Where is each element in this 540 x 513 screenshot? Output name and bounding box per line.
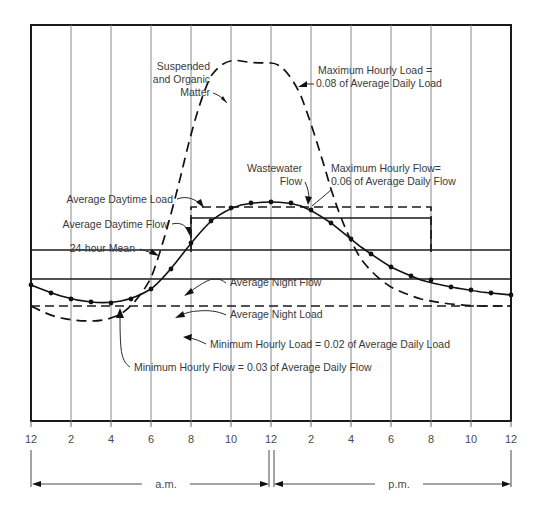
pm-arrow-left (274, 481, 283, 487)
annotation-average-daytime-load: Average Daytime Load (66, 193, 204, 208)
flow-point-11 (249, 201, 254, 206)
flow-point-20 (429, 278, 434, 283)
flow-point-24 (509, 293, 514, 298)
x-tick-label-5: 10 (225, 433, 237, 445)
annotation-wastewater-flow: Wastewater Flow (247, 162, 312, 205)
min-hourly-load-arrowhead (183, 334, 192, 341)
flow-point-12 (269, 200, 274, 205)
max-hourly-load-label-line1: Maximum Hourly Load = (318, 64, 432, 76)
average-daytime-load-label: Average Daytime Load (66, 193, 173, 205)
pm-period-label: p.m. (388, 478, 409, 490)
x-tick-label-6: 12 (265, 433, 277, 445)
x-tick-label-3: 6 (148, 433, 154, 445)
flow-point-19 (409, 274, 414, 279)
max-hourly-flow-label-line1: Maximum Hourly Flow= (331, 162, 441, 174)
x-axis: 12 2 4 6 8 10 12 2 4 6 8 10 12 (25, 421, 517, 445)
average-night-flow-label: Average Night Flow (230, 276, 322, 288)
max-hourly-load-label-line2: 0.08 of Average Daily Load (316, 77, 442, 89)
annotation-24-hour-mean: 24-hour Mean (70, 242, 159, 256)
period-spans: a.m. p.m. (31, 450, 511, 490)
average-night-load-label: Average Night Load (230, 308, 323, 320)
min-hourly-flow-leader (120, 316, 130, 367)
flow-point-2 (69, 297, 74, 302)
max-hourly-flow-label-line2: 0.06 of Average Daily Flow (331, 175, 456, 187)
average-daytime-load-leader (177, 198, 199, 203)
flow-point-14 (309, 208, 314, 213)
x-tick-label-11: 10 (465, 433, 477, 445)
average-night-load-arrowhead (175, 311, 185, 318)
wastewater-flow-label-line1: Wastewater (247, 162, 303, 174)
annotation-average-night-load: Average Night Load (175, 308, 323, 320)
average-night-load-leader (181, 311, 226, 315)
am-arrow-right (260, 481, 269, 487)
x-tick-label-1: 2 (68, 433, 74, 445)
suspended-organic-matter-label-line3: Matter (180, 86, 210, 98)
average-daytime-flow-arrowhead (185, 227, 191, 236)
average-daytime-load-arrowhead (196, 199, 204, 208)
flow-point-21 (449, 285, 454, 290)
flow-point-16 (349, 237, 354, 242)
flow-point-3 (89, 300, 94, 305)
x-tick-label-12: 12 (505, 433, 517, 445)
flow-point-17 (369, 252, 374, 257)
x-tick-label-2: 4 (108, 433, 114, 445)
average-night-flow-arrowhead (184, 288, 194, 296)
x-tick-label-9: 6 (388, 433, 394, 445)
annotation-suspended-organic-matter: Suspended and Organic Matter (153, 60, 227, 103)
average-daytime-flow-leader (172, 223, 188, 230)
flow-point-23 (489, 291, 494, 296)
chart-canvas: Suspended and Organic Matter Maximum Hou… (0, 0, 540, 513)
flow-point-0 (29, 283, 34, 288)
flow-point-15 (329, 221, 334, 226)
flow-point-9 (209, 219, 214, 224)
annotation-max-hourly-load: Maximum Hourly Load = 0.08 of Average Da… (298, 64, 442, 89)
flow-point-18 (389, 265, 394, 270)
annotation-max-hourly-flow: Maximum Hourly Flow= 0.06 of Average Dai… (312, 162, 456, 206)
flow-point-8 (189, 241, 194, 246)
x-axis-tick-labels: 12 2 4 6 8 10 12 2 4 6 8 10 12 (25, 433, 517, 445)
max-hourly-flow-leader (312, 190, 331, 206)
am-arrow-left (32, 481, 41, 487)
average-night-flow-leader (190, 279, 226, 292)
suspended-organic-matter-arrowhead (221, 96, 227, 103)
average-daytime-flow-label: Average Daytime Flow (63, 218, 169, 230)
x-tick-label-4: 8 (188, 433, 194, 445)
flow-point-5 (129, 297, 134, 302)
wastewater-flow-label-line2: Flow (280, 175, 303, 187)
twenty-four-hour-mean-label: 24-hour Mean (70, 242, 136, 254)
x-tick-label-10: 8 (428, 433, 434, 445)
flow-point-13 (289, 201, 294, 206)
flow-point-6 (149, 287, 154, 292)
flow-point-22 (469, 288, 474, 293)
min-hourly-load-leader (190, 338, 206, 344)
x-tick-label-0: 12 (25, 433, 37, 445)
suspended-organic-matter-label-line1: Suspended (157, 60, 210, 72)
pm-arrow-right (502, 481, 511, 487)
max-hourly-load-arrowhead (298, 81, 307, 87)
flow-point-10 (229, 206, 234, 211)
min-hourly-flow-arrowhead (116, 308, 124, 318)
wastewater-variation-figure: Suspended and Organic Matter Maximum Hou… (0, 0, 540, 513)
flow-point-1 (49, 291, 54, 296)
am-period-label: a.m. (155, 478, 176, 490)
annotation-min-hourly-load: Minimum Hourly Load = 0.02 of Average Da… (183, 334, 450, 350)
x-tick-label-8: 4 (348, 433, 354, 445)
min-hourly-flow-label: Minimum Hourly Flow = 0.03 of Average Da… (134, 361, 372, 373)
suspended-organic-matter-label-line2: and Organic (153, 73, 210, 85)
flow-point-4 (109, 301, 114, 306)
annotation-average-daytime-flow: Average Daytime Flow (63, 218, 191, 236)
flow-point-7 (169, 267, 174, 272)
min-hourly-load-label: Minimum Hourly Load = 0.02 of Average Da… (210, 338, 450, 350)
x-tick-label-7: 2 (308, 433, 314, 445)
